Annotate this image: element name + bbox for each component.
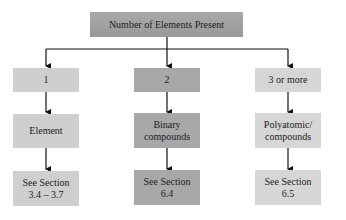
count-label: 1 bbox=[44, 74, 49, 86]
reference-node-1: See Section 3.4 – 3.7 bbox=[13, 171, 79, 206]
count-node-1: 1 bbox=[13, 68, 79, 92]
type-node-polyatomic: Polyatomic/ compounds bbox=[255, 113, 321, 148]
count-label: 3 or more bbox=[269, 74, 308, 86]
type-node-binary: Binary compounds bbox=[134, 113, 200, 148]
root-label: Number of Elements Present bbox=[109, 19, 224, 31]
count-node-2: 2 bbox=[134, 68, 200, 92]
reference-line2: 6.5 bbox=[282, 188, 295, 200]
type-label-line1: Polyatomic/ bbox=[264, 119, 312, 131]
reference-line1: See Section bbox=[265, 176, 312, 188]
reference-line2: 6.4 bbox=[161, 188, 174, 200]
count-node-3: 3 or more bbox=[255, 68, 321, 92]
reference-node-3: See Section 6.5 bbox=[255, 170, 321, 205]
type-label-line2: compounds bbox=[144, 131, 190, 143]
type-label-line1: Binary bbox=[153, 119, 180, 131]
count-label: 2 bbox=[165, 74, 170, 86]
type-label: Element bbox=[29, 125, 62, 137]
reference-node-2: See Section 6.4 bbox=[134, 170, 200, 205]
root-node: Number of Elements Present bbox=[90, 12, 243, 37]
type-label-line2: compounds bbox=[265, 131, 311, 143]
reference-line1: See Section bbox=[144, 176, 191, 188]
reference-line1: See Section bbox=[23, 177, 70, 189]
type-node-element: Element bbox=[13, 114, 79, 148]
reference-line2: 3.4 – 3.7 bbox=[29, 189, 64, 201]
